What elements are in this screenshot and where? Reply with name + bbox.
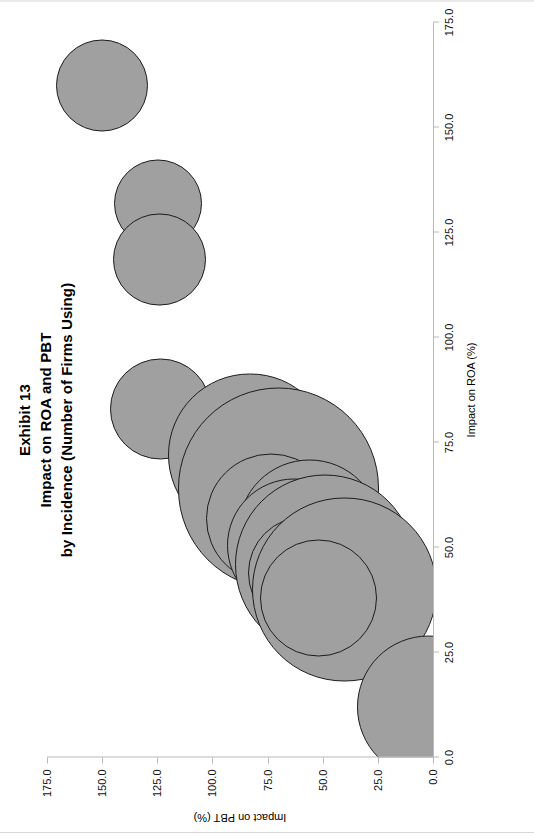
- x-tick-label: 100.0: [443, 323, 455, 351]
- x-tick-label: 25.0: [443, 641, 455, 662]
- x-tick: [433, 651, 439, 652]
- y-tick: [157, 757, 158, 763]
- y-tick-label: 50.0: [317, 769, 329, 790]
- plot-area: 0.025.050.075.0100.0125.0150.0175.0 0.02…: [47, 22, 433, 757]
- bubble-layer: [47, 22, 434, 757]
- y-tick-label: 0.0: [427, 769, 439, 784]
- x-tick-label: 150.0: [443, 113, 455, 141]
- y-tick: [212, 757, 213, 763]
- x-tick: [433, 546, 439, 547]
- x-tick-label: 50.0: [443, 536, 455, 557]
- y-tick-label: 75.0: [262, 769, 274, 790]
- y-axis-title: Impact on PBT (%): [194, 811, 287, 823]
- y-tick: [323, 757, 324, 763]
- bubble-point: [56, 39, 148, 131]
- bubble-point: [260, 539, 378, 657]
- x-tick: [433, 441, 439, 442]
- x-tick: [433, 336, 439, 337]
- x-axis-line: [433, 22, 434, 757]
- x-axis-title: Impact on ROA (%): [465, 22, 477, 757]
- y-tick-label: 25.0: [372, 769, 384, 790]
- y-tick-label: 100.0: [206, 769, 218, 797]
- x-tick-label: 125.0: [443, 218, 455, 246]
- y-tick: [378, 757, 379, 763]
- y-tick: [433, 757, 434, 763]
- y-tick-label: 150.0: [96, 769, 108, 797]
- y-tick-label: 125.0: [151, 769, 163, 797]
- y-tick: [268, 757, 269, 763]
- y-axis-line: [47, 756, 433, 757]
- bubble-point: [113, 213, 205, 305]
- y-tick-label: 175.0: [41, 769, 53, 797]
- y-tick: [102, 757, 103, 763]
- x-tick-label: 175.0: [443, 8, 455, 36]
- y-tick: [47, 757, 48, 763]
- x-tick-label: 0.0: [443, 749, 455, 764]
- title-line-1: Exhibit 13: [14, 0, 35, 839]
- x-tick: [433, 21, 439, 22]
- x-tick: [433, 126, 439, 127]
- x-tick-label: 75.0: [443, 431, 455, 452]
- bubble-chart: Exhibit 13 Impact on ROA and PBT by Inci…: [0, 0, 534, 839]
- x-tick: [433, 231, 439, 232]
